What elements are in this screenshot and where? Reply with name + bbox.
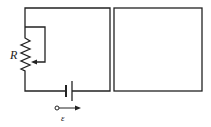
arrow-origin-circle [55,106,59,110]
emf-label: ε [61,113,65,123]
emf-arrowhead-icon [75,106,81,111]
left-loop-wire [25,8,110,91]
circuit-diagram: R ε [0,0,211,127]
wiper-arrowhead-icon [31,60,37,65]
resistor [21,36,30,72]
resistor-label: R [9,48,18,62]
right-loop [114,8,202,91]
